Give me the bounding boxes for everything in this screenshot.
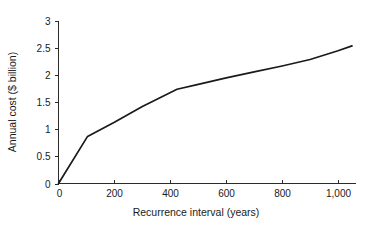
y-tick-label: 0	[45, 179, 51, 190]
x-tick-label: 1,000	[326, 188, 351, 199]
y-tick-label: 2	[45, 70, 51, 81]
y-tick-label: 0.5	[37, 151, 51, 162]
x-axis-title: Recurrence interval (years)	[133, 206, 260, 218]
line-chart: 00.511.522.53 02004006008001,000 Annual …	[0, 0, 372, 230]
chart-figure: 00.511.522.53 02004006008001,000 Annual …	[0, 0, 372, 230]
y-tick-label: 1	[45, 124, 51, 135]
y-tick-label: 3	[45, 16, 51, 27]
x-tick-label: 400	[162, 188, 179, 199]
x-tick-label: 800	[274, 188, 291, 199]
x-tick-label: 0	[57, 188, 63, 199]
y-tick-label: 1.5	[37, 97, 51, 108]
y-tick-label: 2.5	[37, 43, 51, 54]
x-tick-label: 200	[106, 188, 123, 199]
x-tick-label: 600	[218, 188, 235, 199]
y-axis-title: Annual cost ($ billion)	[6, 52, 18, 152]
